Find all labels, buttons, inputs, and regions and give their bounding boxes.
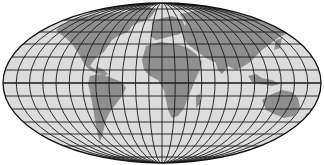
mollweide-map-svg (0, 0, 324, 165)
world-map (0, 0, 324, 165)
